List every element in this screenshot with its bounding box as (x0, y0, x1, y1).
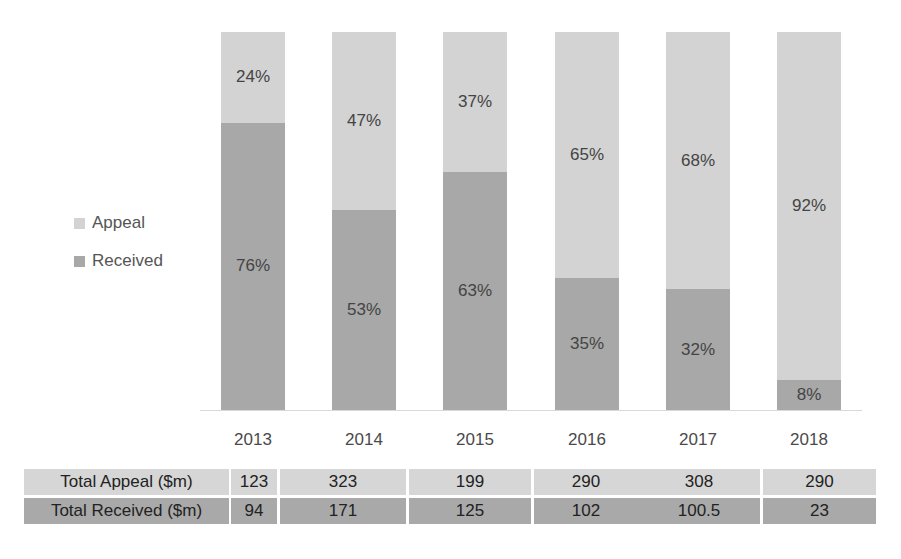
stacked-bar-chart: 24%76%47%53%37%63%65%35%68%32%92%8% 2013… (0, 0, 901, 460)
table-cell: 171 (280, 498, 406, 524)
table-cell: 199 (409, 469, 531, 495)
bar-2017: 68%32% (666, 32, 730, 410)
bar-segment-appeal: 68% (666, 32, 730, 289)
bar-segment-received: 8% (777, 380, 841, 410)
bar-segment-received: 53% (332, 210, 396, 410)
bar-segment-received: 35% (555, 278, 619, 410)
bar-segment-received: 63% (443, 172, 507, 410)
bar-segment-received: 32% (666, 289, 730, 410)
data-label-received: 8% (777, 385, 841, 405)
bar-2018: 92%8% (777, 32, 841, 410)
legend-item-appeal: Appeal (74, 213, 163, 233)
x-axis-line (200, 410, 862, 411)
table-cell: 290 (763, 469, 876, 495)
bar-2013: 24%76% (221, 32, 285, 410)
legend-item-received: Received (74, 251, 163, 271)
legend-label-received: Received (92, 251, 163, 271)
bar-segment-appeal: 47% (332, 32, 396, 210)
data-label-appeal: 24% (221, 67, 285, 87)
table-cell: 23 (763, 498, 876, 524)
table-cell: 125 (409, 498, 531, 524)
x-tick-label: 2016 (537, 430, 637, 450)
data-label-received: 32% (666, 340, 730, 360)
legend: Appeal Received (74, 213, 163, 289)
data-label-received: 63% (443, 281, 507, 301)
x-tick-label: 2017 (648, 430, 748, 450)
bar-segment-appeal: 24% (221, 32, 285, 123)
legend-swatch-appeal (74, 218, 85, 229)
bar-2014: 47%53% (332, 32, 396, 410)
data-label-appeal: 47% (332, 111, 396, 131)
bar-2016: 65%35% (555, 32, 619, 410)
legend-label-appeal: Appeal (92, 213, 145, 233)
table-cell: 308 (638, 469, 760, 495)
data-label-appeal: 92% (777, 196, 841, 216)
x-tick-label: 2018 (759, 430, 859, 450)
table-cell: 123 (231, 469, 277, 495)
table-row-label: Total Appeal ($m) (24, 469, 229, 495)
bar-segment-appeal: 65% (555, 32, 619, 278)
bar-segment-received: 76% (221, 123, 285, 410)
data-label-appeal: 65% (555, 145, 619, 165)
legend-swatch-received (74, 256, 85, 267)
data-label-appeal: 68% (666, 151, 730, 171)
x-tick-label: 2014 (314, 430, 414, 450)
data-label-received: 35% (555, 334, 619, 354)
data-label-received: 76% (221, 256, 285, 276)
table-cell: 94 (231, 498, 277, 524)
data-label-received: 53% (332, 300, 396, 320)
data-label-appeal: 37% (443, 92, 507, 112)
table-cell: 100.5 (638, 498, 760, 524)
bar-segment-appeal: 92% (777, 32, 841, 380)
table-row-label: Total Received ($m) (24, 498, 229, 524)
x-tick-label: 2013 (203, 430, 303, 450)
bar-2015: 37%63% (443, 32, 507, 410)
table-cell: 290 (534, 469, 638, 495)
bar-segment-appeal: 37% (443, 32, 507, 172)
table-cell: 323 (280, 469, 406, 495)
x-tick-label: 2015 (425, 430, 525, 450)
table-cell: 102 (534, 498, 638, 524)
